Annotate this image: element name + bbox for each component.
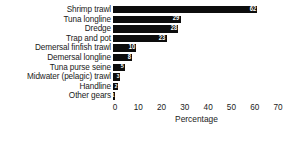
x-tick-40: 40 [200,103,216,113]
bar-handline: 2 [113,83,118,90]
category-label-demersal-longline: Demersal longline [0,53,113,63]
bar-value-label: 5 [121,64,125,71]
chart-row: Handline 2 [0,82,286,92]
x-tick-60: 60 [247,103,263,113]
x-axis-title: Percentage [115,114,278,125]
x-tick-0: 0 [107,103,123,113]
bar-tuna-purse-seine: 5 [113,64,125,71]
chart-row: Dredge 28 [0,24,286,34]
chart-row: Shrimp trawl 62 [0,5,286,15]
x-tick-30: 30 [177,103,193,113]
x-tick-20: 20 [154,103,170,113]
chart-row: Midwater (pelagic) trawl 3 [0,72,286,82]
bar-track: 5 [113,63,284,73]
bar-value-label: 2 [114,83,117,90]
bar-value-label: 23 [159,35,167,42]
bar-trap-and-pot: 23 [113,35,167,42]
chart-row: Trap and pot 23 [0,34,286,44]
chart-row: Other gears 1 [0,91,286,101]
category-label-dredge: Dredge [0,24,113,34]
chart-row: Tuna purse seine 5 [0,63,286,73]
chart-row: Tuna longline 29 [0,15,286,25]
bar-dredge: 28 [113,25,178,32]
category-label-trap-and-pot: Trap and pot [0,34,113,44]
bar-value-label: 28 [171,26,179,33]
bycatch-percentage-bar-chart: Shrimp trawl 62 Tuna longline 29 Dredge … [0,0,286,145]
bar-other-gears: 1 [113,92,115,99]
chart-row: Demersal finfish trawl 10 [0,43,286,53]
bar-track: 62 [113,5,284,15]
category-label-midwater-pelagic-trawl: Midwater (pelagic) trawl [0,72,113,82]
bar-value-label: 62 [250,6,258,13]
bar-value-label: 8 [127,54,131,61]
category-label-shrimp-trawl: Shrimp trawl [0,5,113,15]
bar-track: 29 [113,15,284,25]
category-label-tuna-purse-seine: Tuna purse seine [0,63,113,73]
bar-value-label: 29 [173,16,181,23]
bar-value-label: 10 [129,45,137,52]
bar-track: 28 [113,24,284,34]
x-tick-10: 10 [130,103,146,113]
bar-value-label: 3 [117,73,120,80]
bar-track: 1 [113,91,284,101]
category-label-handline: Handline [0,82,113,92]
bar-value-label: 1 [112,93,115,100]
chart-plot-area: Shrimp trawl 62 Tuna longline 29 Dredge … [0,5,286,101]
bar-shrimp-trawl: 62 [113,6,257,13]
x-tick-50: 50 [223,103,239,113]
chart-row: Demersal longline 8 [0,53,286,63]
category-label-demersal-finfish-trawl: Demersal finfish trawl [0,43,113,53]
category-label-other-gears: Other gears [0,91,113,101]
bar-track: 2 [113,82,284,92]
bar-demersal-finfish-trawl: 10 [113,44,136,51]
bar-tuna-longline: 29 [113,16,181,23]
bar-midwater-pelagic-trawl: 3 [113,73,120,80]
bar-track: 23 [113,34,284,44]
bar-track: 10 [113,43,284,53]
x-tick-70: 70 [270,103,286,113]
category-label-tuna-longline: Tuna longline [0,15,113,25]
bar-track: 8 [113,53,284,63]
bar-track: 3 [113,72,284,82]
bar-demersal-longline: 8 [113,54,132,61]
